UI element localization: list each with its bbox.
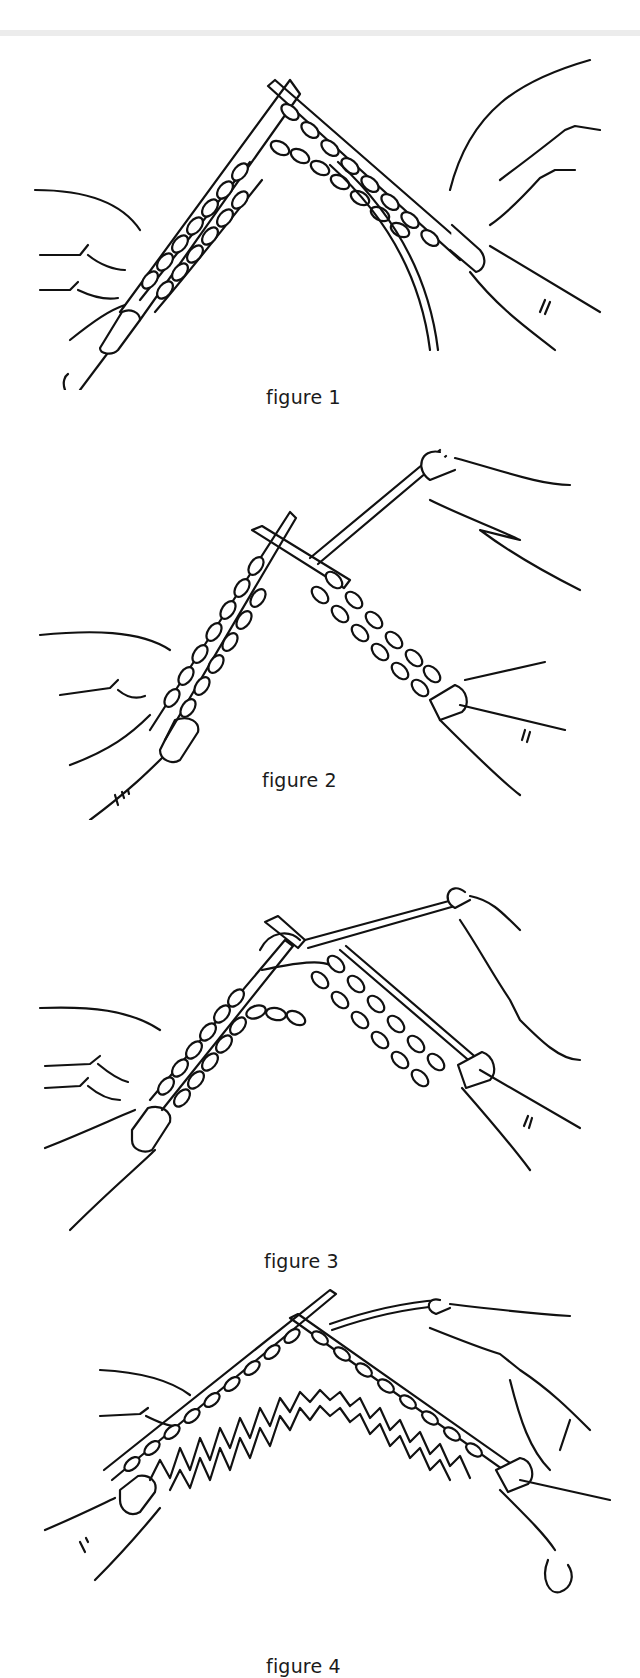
- figure-4: figure 4: [0, 1280, 640, 1678]
- figure-2: figure 2: [0, 430, 640, 850]
- figure-caption: figure 4: [266, 1655, 341, 1677]
- top-divider-band: [0, 30, 640, 36]
- figure-caption: figure 3: [264, 1250, 339, 1272]
- knitting-illustration-1: [0, 50, 640, 390]
- knitting-illustration-4: [0, 1280, 640, 1610]
- figure-1: figure 1: [0, 50, 640, 420]
- figure-caption: figure 2: [262, 769, 337, 791]
- knitting-illustration-3: [0, 860, 640, 1240]
- knitting-illustration-2: [0, 430, 640, 820]
- figure-caption: figure 1: [266, 386, 341, 408]
- figure-3: figure 3: [0, 860, 640, 1280]
